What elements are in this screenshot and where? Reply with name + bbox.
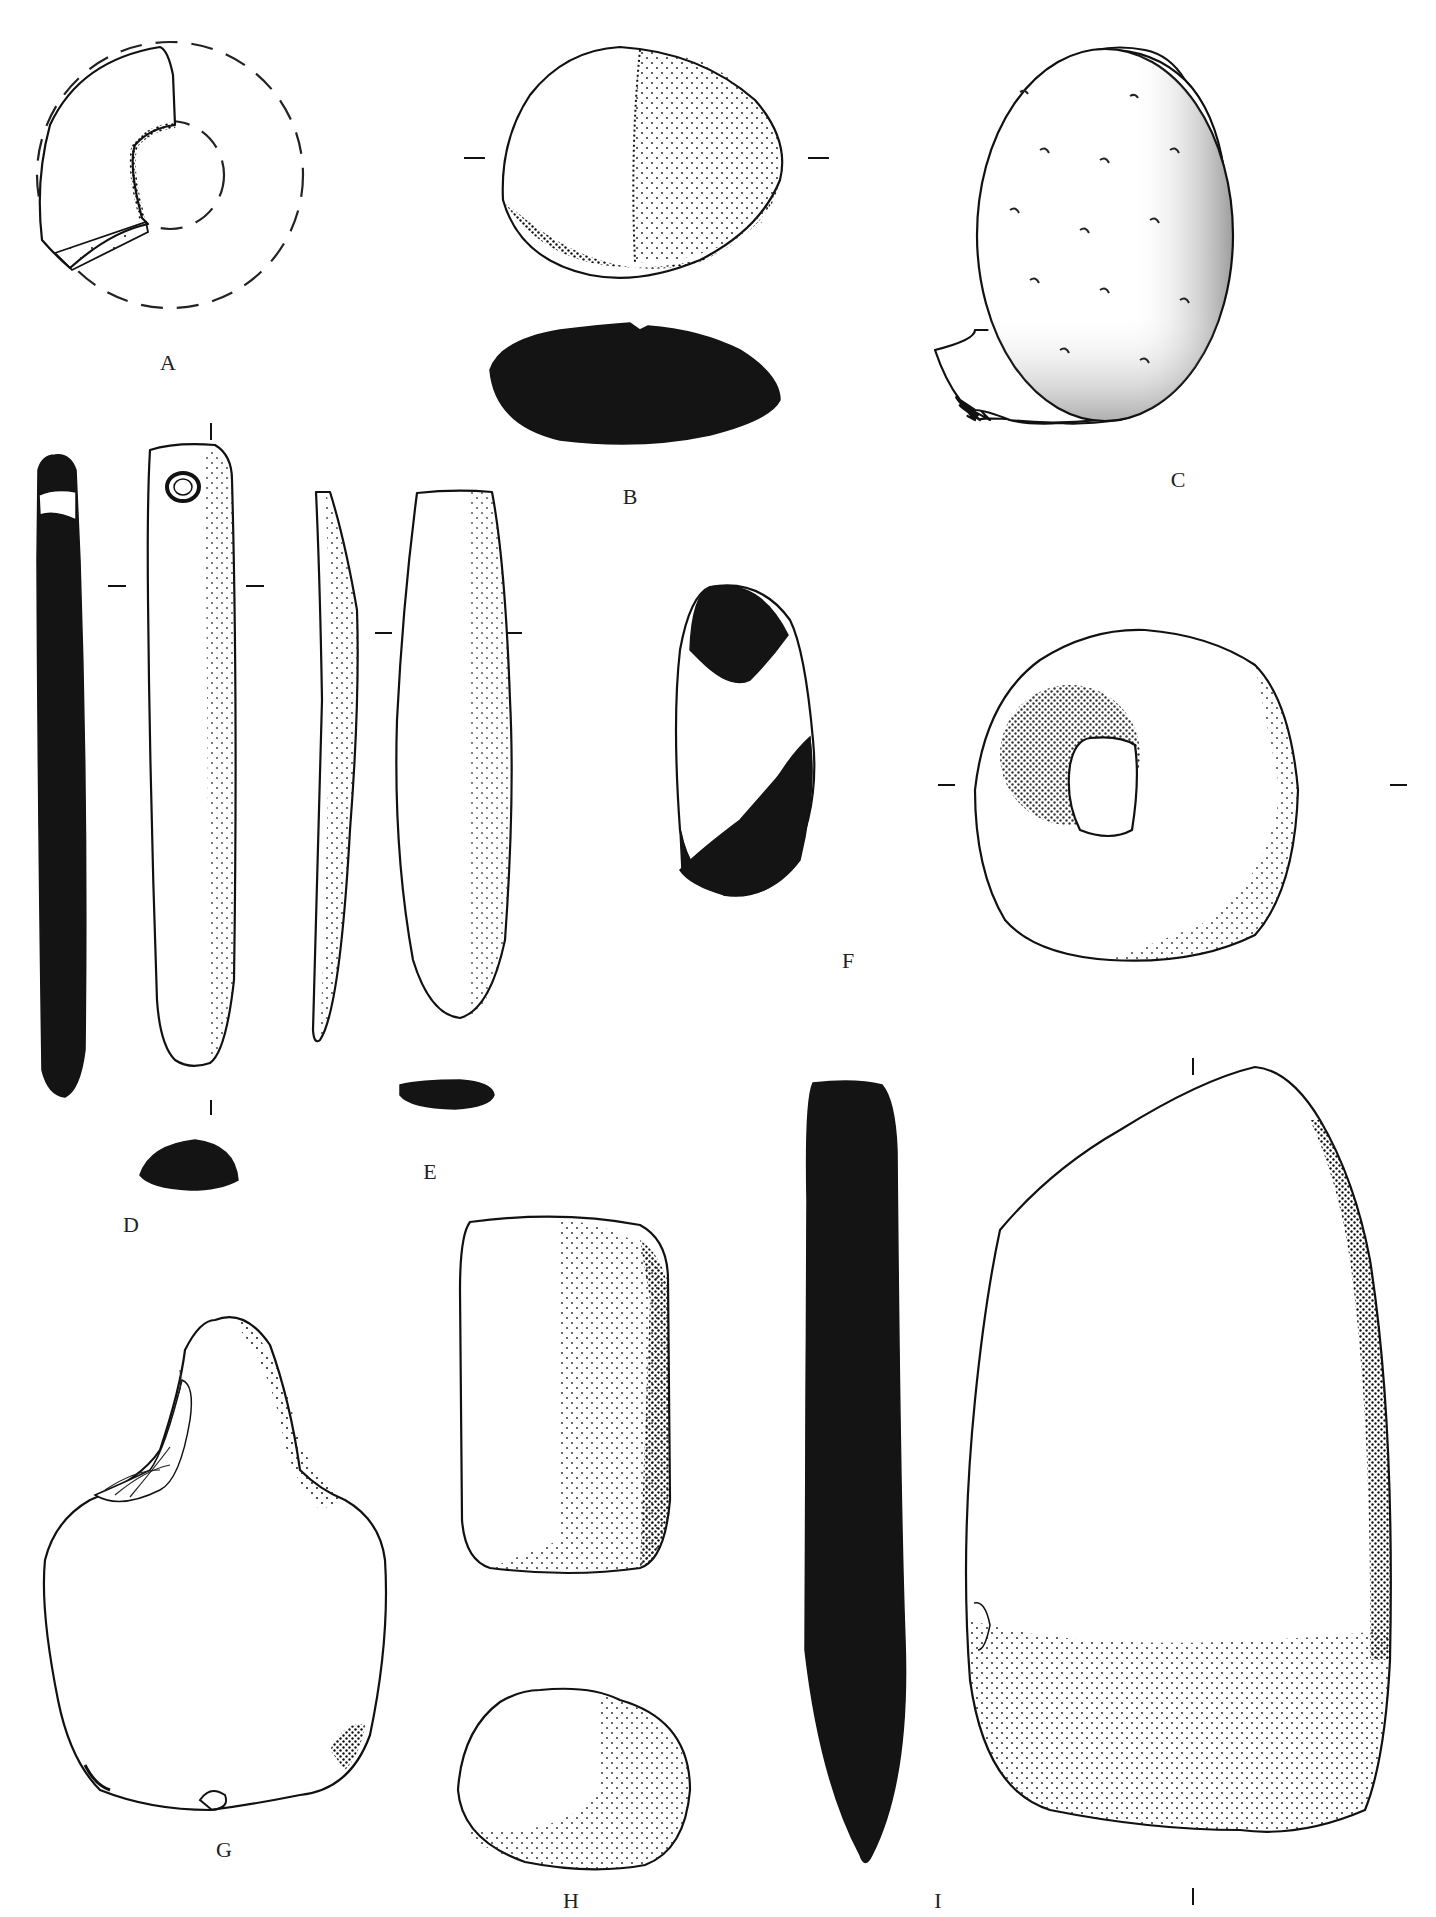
figure-i bbox=[805, 1058, 1391, 1905]
figure-c bbox=[935, 48, 1233, 424]
figure-label-d: D bbox=[123, 1214, 139, 1236]
figure-label-i: I bbox=[934, 1890, 941, 1912]
figure-label-c: C bbox=[1171, 469, 1186, 491]
artifact-plate bbox=[0, 0, 1436, 1917]
figure-e bbox=[313, 491, 522, 1109]
figure-f bbox=[676, 585, 1407, 960]
figure-label-f: F bbox=[842, 950, 854, 972]
figure-label-g: G bbox=[216, 1839, 232, 1861]
figure-b bbox=[464, 47, 829, 444]
figure-label-a: A bbox=[160, 352, 176, 374]
figure-label-e: E bbox=[423, 1161, 436, 1183]
figure-g bbox=[44, 1315, 386, 1810]
figure-d bbox=[37, 423, 264, 1190]
figure-label-b: B bbox=[623, 486, 638, 508]
figure-h bbox=[458, 1217, 690, 1870]
figure-a bbox=[37, 42, 303, 308]
figure-label-h: H bbox=[563, 1890, 579, 1912]
